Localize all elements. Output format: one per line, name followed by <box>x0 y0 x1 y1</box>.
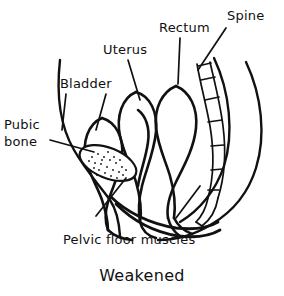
label-spine: Spine <box>227 8 264 23</box>
label-pubic-bone: Pubic bone <box>4 116 40 150</box>
figure-caption: Weakened <box>0 266 284 285</box>
label-bladder: Bladder <box>60 76 112 91</box>
figure-canvas: Prolapse <box>0 0 284 296</box>
leader-bladder <box>96 94 106 130</box>
label-uterus: Uterus <box>103 42 147 57</box>
leader-rectum <box>178 38 180 84</box>
label-pubic-bone-line1: Pubic <box>4 116 40 133</box>
label-pubic-bone-line2: bone <box>4 133 40 150</box>
label-rectum: Rectum <box>159 20 210 35</box>
label-pelvic-floor-muscles: Pelvic floor muscles <box>63 232 195 247</box>
leader-pfm-right <box>176 186 200 218</box>
spine-sacrum <box>196 62 225 226</box>
